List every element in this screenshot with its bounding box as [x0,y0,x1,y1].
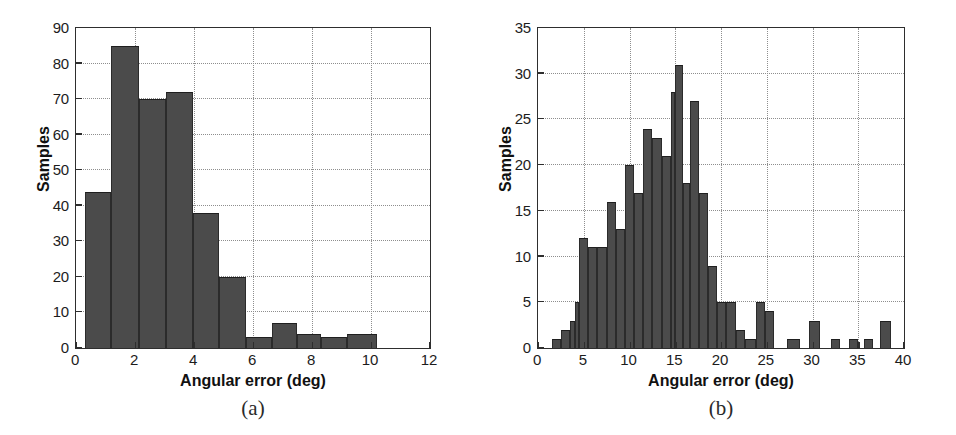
histogram-bar [675,65,682,348]
y-axis-tick-label: 15 [489,201,531,218]
histogram-bar [85,192,112,348]
histogram-bar [745,339,756,348]
x-axis-tick [630,342,631,348]
histogram-bar [787,339,800,348]
x-axis-tick-label: 0 [533,351,541,368]
y-axis-tick-label: 20 [489,156,531,173]
y-axis-tick-label: 90 [27,19,69,36]
histogram-bar [683,183,690,348]
histogram-bar [616,229,625,348]
histogram-bar [347,334,377,348]
x-axis-tick [767,342,768,348]
x-axis-tick [813,342,814,348]
x-axis-tick-label: 25 [758,351,774,368]
y-axis-tick [76,27,82,28]
histogram-bar [662,156,671,348]
histogram-bar [597,247,606,348]
y-axis-tick [76,133,82,134]
histogram-bar [111,46,139,348]
histogram-bar [321,337,348,348]
y-axis-tick-label: 30 [27,232,69,249]
histogram-bar [809,321,820,348]
y-axis-tick-label: 25 [489,110,531,127]
gridline-vertical [312,28,313,348]
histogram-bar [579,238,588,348]
histogram-bar [588,247,597,348]
x-axis-tick [135,342,136,348]
gridline-horizontal [538,118,904,119]
figure-two-histograms: Samples Angular error (deg) (a) 01020304… [0,0,956,435]
plot-area-b [537,27,905,349]
histogram-bar [219,277,246,348]
y-axis-tick [76,169,82,170]
histogram-bar [849,339,858,348]
gridline-horizontal [538,164,904,165]
x-axis-tick [538,342,539,348]
y-axis-tick-label: 0 [489,339,531,356]
gridline-vertical [371,28,372,348]
x-axis-title-b: Angular error (deg) [537,372,905,390]
y-axis-tick [538,164,544,165]
y-axis-tick [538,27,544,28]
x-axis-tick [194,342,195,348]
histogram-bar [297,334,321,348]
y-axis-tick [538,255,544,256]
histogram-bar [166,92,193,348]
gridline-vertical [721,28,722,348]
y-axis-tick [538,301,544,302]
x-axis-tick-label: 35 [849,351,865,368]
y-axis-tick [538,72,544,73]
histogram-bar [652,138,661,348]
y-axis-tick [76,276,82,277]
gridline-horizontal [538,73,904,74]
x-axis-tick [312,342,313,348]
y-axis-tick-label: 10 [27,303,69,320]
y-axis-tick-label: 30 [489,64,531,81]
gridline-vertical [767,28,768,348]
x-axis-tick [858,342,859,348]
panel-b: Samples Angular error (deg) (b) 05101520… [478,0,956,435]
subcaption-b: (b) [709,396,734,421]
y-axis-tick-label: 70 [27,90,69,107]
x-axis-tick-label: 4 [189,351,197,368]
x-axis-tick-label: 6 [248,351,256,368]
x-axis-tick-label: 20 [712,351,728,368]
subcaption-a: (a) [241,396,264,421]
histogram-bar [708,266,717,348]
x-axis-tick-label: 10 [620,351,636,368]
gridline-horizontal [538,210,904,211]
histogram-bar [880,321,891,348]
x-axis-tick [371,342,372,348]
x-axis-tick-label: 2 [130,351,138,368]
y-axis-tick [76,98,82,99]
x-axis-tick-label: 8 [307,351,315,368]
x-axis-tick [584,342,585,348]
y-axis-tick [76,204,82,205]
histogram-bar [736,330,745,348]
x-axis-tick [675,342,676,348]
y-axis-tick-label: 40 [27,196,69,213]
histogram-bar [756,302,765,348]
x-axis-tick-label: 10 [362,351,378,368]
y-axis-tick-label: 20 [27,267,69,284]
x-axis-tick [429,342,430,348]
x-axis-tick-label: 5 [579,351,587,368]
histogram-bar [726,302,735,348]
gridline-vertical [858,28,859,348]
histogram-bar [625,165,634,348]
gridline-vertical [813,28,814,348]
histogram-bar [699,193,708,348]
y-axis-tick-label: 0 [27,339,69,356]
x-axis-title-a: Angular error (deg) [75,372,431,390]
histogram-bar [246,337,273,348]
y-axis-tick [538,210,544,211]
gridline-vertical [253,28,254,348]
y-axis-tick [76,62,82,63]
x-axis-tick-label: 15 [666,351,682,368]
x-axis-tick-label: 40 [895,351,911,368]
histogram-bar [690,101,699,348]
histogram-bar [193,213,220,348]
histogram-bar [561,330,570,348]
y-axis-tick [76,311,82,312]
y-axis-tick-label: 5 [489,293,531,310]
